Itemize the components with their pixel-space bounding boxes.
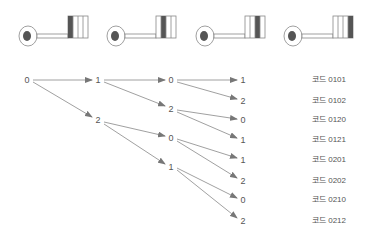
tree-node-l3: 0	[240, 116, 245, 125]
code-label: 코드 0212	[312, 217, 346, 225]
code-label: 코드 0101	[312, 76, 346, 84]
code-label: 코드 0121	[312, 136, 346, 144]
tree-node-l2: 1	[168, 163, 173, 172]
code-label: 코드 0201	[312, 156, 346, 164]
code-label: 코드 0210	[312, 196, 346, 204]
tree-node-l2: 2	[168, 105, 173, 114]
code-label: 코드 0102	[312, 97, 346, 105]
tree-node-l3: 2	[240, 177, 245, 186]
code-label: 코드 0202	[312, 177, 346, 185]
tree-node-l1: 2	[95, 116, 100, 125]
tree-node-l3: 1	[240, 156, 245, 165]
tree-node-l3: 1	[240, 136, 245, 145]
tree-node-l2: 0	[168, 76, 173, 85]
tree-node-l1: 1	[95, 76, 100, 85]
tree-node-l3: 2	[240, 97, 245, 106]
tree-node-l3: 1	[240, 76, 245, 85]
tree-node-l2: 0	[168, 134, 173, 143]
code-label: 코드 0120	[312, 116, 346, 124]
tree-node-root: 0	[24, 76, 29, 85]
tree-node-l3: 0	[240, 196, 245, 205]
tree-node-l3: 2	[240, 217, 245, 226]
